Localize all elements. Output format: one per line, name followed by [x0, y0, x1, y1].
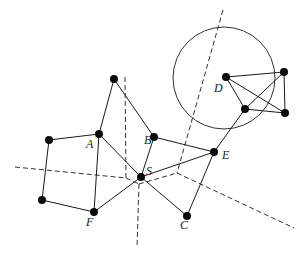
edge-D2-D4 — [284, 72, 285, 113]
edge-E-C — [187, 152, 214, 216]
edge-L2-F — [42, 200, 94, 212]
node-E — [210, 148, 218, 156]
edge-S-F — [94, 177, 141, 212]
voronoi-dashed-boundaries — [15, 10, 294, 248]
graph-edges — [42, 72, 285, 216]
node-top — [110, 75, 118, 83]
network-diagram: ABSECFD — [0, 0, 308, 260]
edge-E-D3 — [214, 109, 245, 152]
edge-A-S — [99, 134, 141, 177]
edge-D-D3 — [226, 77, 245, 109]
node-label-D: D — [213, 81, 223, 95]
dashed-boundary-line — [15, 167, 126, 178]
edge-D-D4 — [226, 77, 285, 113]
dashed-boundary-line — [137, 184, 139, 248]
node-D — [222, 73, 230, 81]
node-L2 — [38, 196, 46, 204]
node-label-A: A — [85, 137, 94, 151]
node-D2 — [280, 68, 288, 76]
dashed-boundary-line — [177, 173, 294, 228]
edge-D2-D3 — [245, 72, 284, 109]
node-label-B: B — [144, 133, 152, 147]
node-D4 — [281, 109, 289, 117]
dashed-boundary-line — [125, 77, 126, 178]
node-label-E: E — [221, 148, 230, 162]
edge-top-A — [99, 79, 114, 134]
node-D3 — [241, 105, 249, 113]
node-label-C: C — [180, 218, 189, 232]
node-label-F: F — [85, 215, 94, 229]
graph-nodes — [38, 68, 289, 220]
node-S — [137, 173, 145, 181]
node-label-S: S — [146, 164, 152, 178]
node-A — [95, 130, 103, 138]
edge-A-F — [94, 134, 99, 212]
edge-S-C — [141, 177, 187, 216]
edge-top-B — [114, 79, 154, 137]
node-L1 — [45, 136, 53, 144]
node-labels: ABSECFD — [85, 81, 230, 232]
